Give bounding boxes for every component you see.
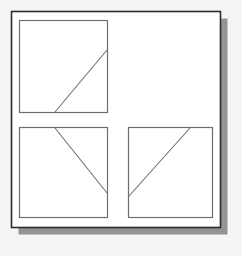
panel-border xyxy=(20,21,108,113)
figure-canvas xyxy=(0,0,242,256)
panel-bottom-left xyxy=(20,128,108,218)
panel-border xyxy=(129,128,213,218)
panel-border xyxy=(20,128,108,218)
panel-bottom-right xyxy=(129,128,213,218)
panel-top-left xyxy=(20,21,108,113)
